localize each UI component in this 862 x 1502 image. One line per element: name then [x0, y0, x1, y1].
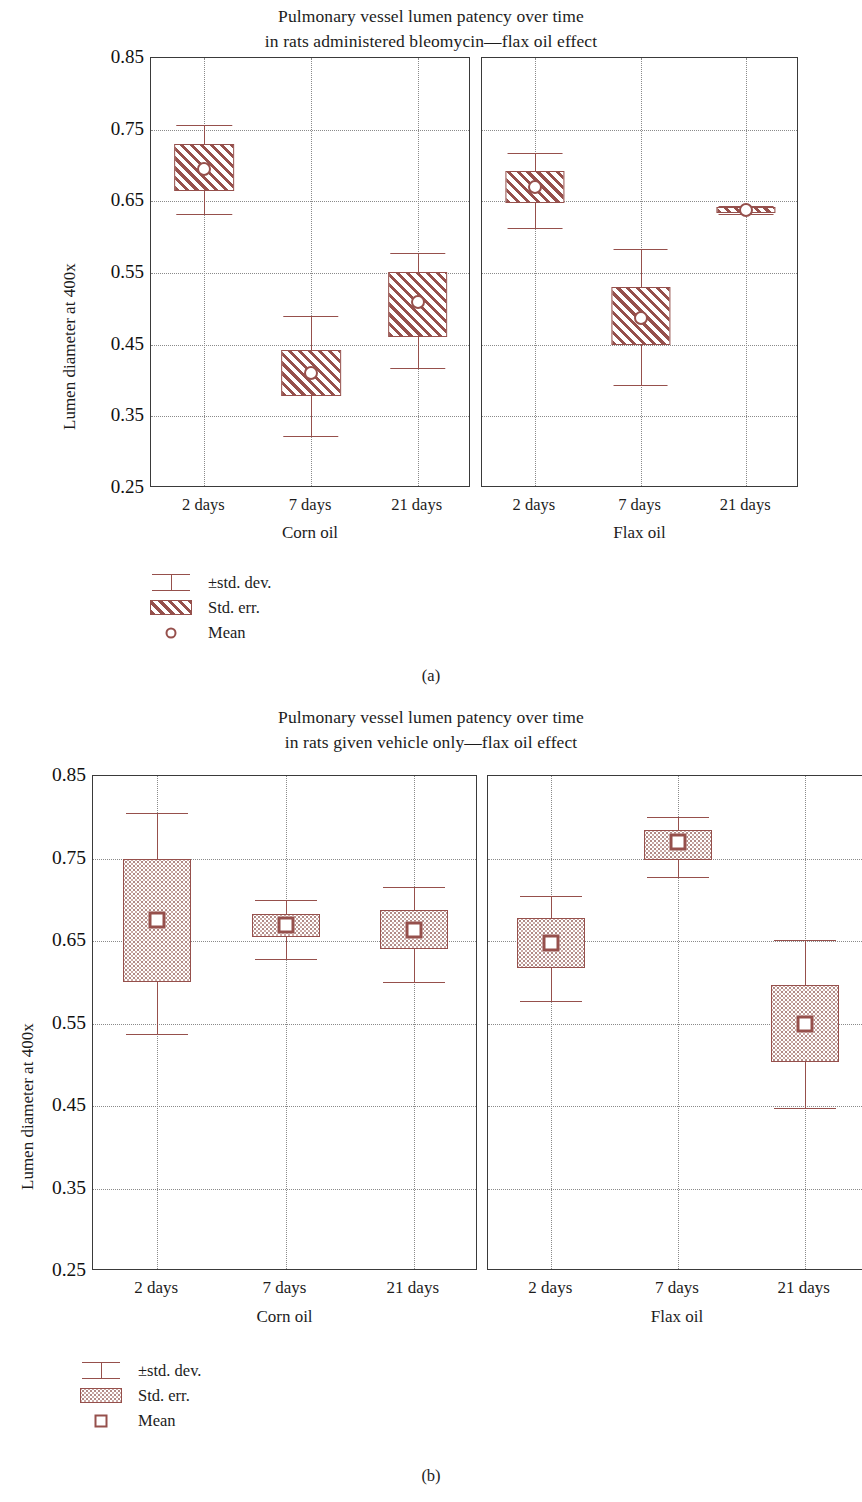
y-tick-label: 0.75: [111, 118, 144, 140]
x-tick-label: 7 days: [289, 495, 332, 515]
whisker-cap-lower: [383, 982, 445, 983]
error-bar-icon: [148, 572, 194, 593]
legend-label: ±std. dev.: [138, 1361, 201, 1381]
chart-b-panel-corn-oil: [92, 775, 477, 1270]
whisker-cap-lower: [774, 1108, 836, 1109]
x-tick-label: 21 days: [387, 1278, 439, 1298]
chart-a-legend: ±std. dev.Std. err.Mean: [148, 570, 271, 645]
chart-a-subcaption: (a): [0, 666, 862, 686]
std-err-swatch: [150, 600, 192, 615]
std-err-box-icon: [148, 597, 194, 618]
error-bar-icon: [78, 1360, 124, 1381]
chart-b-flax-plot-area: [488, 776, 862, 1269]
std-err-swatch: [80, 1388, 122, 1403]
chart-b-title: Pulmonary vessel lumen patency over time…: [0, 705, 862, 755]
legend-item: ±std. dev.: [148, 570, 271, 595]
figure-page: Pulmonary vessel lumen patency over time…: [0, 0, 862, 1502]
whisker-cap-lower: [390, 368, 445, 369]
y-tick-label: 0.45: [52, 1094, 86, 1116]
y-tick-label: 0.25: [52, 1259, 86, 1281]
group-label-corn-oil: Corn oil: [282, 523, 338, 543]
chart-b-title-line1: Pulmonary vessel lumen patency over time: [0, 705, 862, 730]
mean-marker: [796, 1015, 813, 1032]
chart-a-panel-flax-oil: [481, 57, 798, 487]
x-tick-label: 2 days: [134, 1278, 178, 1298]
mean-circle-icon: [148, 622, 194, 643]
y-tick-label: 0.35: [111, 404, 144, 426]
mean-marker: [411, 295, 425, 309]
x-tick-label: 2 days: [528, 1278, 572, 1298]
chart-b-subcaption: (b): [0, 1466, 862, 1486]
legend-label: ±std. dev.: [208, 573, 271, 593]
legend-item: Mean: [78, 1408, 201, 1433]
y-tick-label: 0.45: [111, 333, 144, 355]
chart-b-panel-flax-oil: [487, 775, 862, 1270]
whisker-cap-upper: [774, 940, 836, 941]
x-tick-label: 21 days: [391, 495, 442, 515]
box-plot-21-days: [151, 58, 469, 486]
x-tick-label: 2 days: [513, 495, 556, 515]
legend-label: Std. err.: [138, 1386, 190, 1406]
chart-b-corn-plot-area: [93, 776, 476, 1269]
box-plot-21-days: [488, 776, 862, 1269]
y-tick-label: 0.85: [111, 46, 144, 68]
legend-item: Std. err.: [148, 595, 271, 620]
group-label-flax-oil: Flax oil: [651, 1307, 703, 1327]
chart-a-y-tick-labels: 0.850.750.650.550.450.350.25: [92, 57, 144, 487]
mean-square-icon: [78, 1410, 124, 1431]
group-label-corn-oil: Corn oil: [256, 1307, 312, 1327]
chart-a-corn-plot-area: [151, 58, 469, 486]
box-plot-21-days: [482, 58, 797, 486]
x-tick-label: 21 days: [720, 495, 771, 515]
y-tick-label: 0.65: [111, 189, 144, 211]
legend-label: Mean: [208, 623, 246, 643]
whisker-cap-upper: [383, 887, 445, 888]
box-plot-21-days: [93, 776, 476, 1269]
whisker-cap-upper: [390, 253, 445, 254]
mean-marker: [405, 922, 422, 939]
y-tick-label: 0.35: [52, 1177, 86, 1199]
y-tick-label: 0.25: [111, 476, 144, 498]
x-tick-label: 7 days: [655, 1278, 699, 1298]
x-tick-label: 21 days: [777, 1278, 829, 1298]
y-tick-label: 0.65: [52, 929, 86, 951]
chart-b-title-line2: in rats given vehicle only—flax oil effe…: [0, 730, 862, 755]
x-tick-label: 7 days: [263, 1278, 307, 1298]
chart-a-panel-corn-oil: [150, 57, 470, 487]
chart-a-flax-plot-area: [482, 58, 797, 486]
mean-marker: [739, 203, 753, 217]
chart-b-y-tick-labels: 0.850.750.650.550.450.350.25: [30, 775, 86, 1270]
std-err-box-icon: [78, 1385, 124, 1406]
legend-item: Mean: [148, 620, 271, 645]
group-label-flax-oil: Flax oil: [613, 523, 665, 543]
y-tick-label: 0.55: [52, 1012, 86, 1034]
x-tick-label: 2 days: [182, 495, 225, 515]
legend-item: ±std. dev.: [78, 1358, 201, 1383]
legend-label: Mean: [138, 1411, 176, 1431]
chart-a-title-line1: Pulmonary vessel lumen patency over time: [0, 4, 862, 29]
y-tick-label: 0.85: [52, 764, 86, 786]
y-tick-label: 0.55: [111, 261, 144, 283]
legend-item: Std. err.: [78, 1383, 201, 1408]
y-tick-label: 0.75: [52, 847, 86, 869]
chart-a-y-axis-label: Lumen diameter at 400x: [60, 263, 80, 430]
legend-label: Std. err.: [208, 598, 260, 618]
x-tick-label: 7 days: [618, 495, 661, 515]
chart-b-legend: ±std. dev.Std. err.Mean: [78, 1358, 201, 1433]
